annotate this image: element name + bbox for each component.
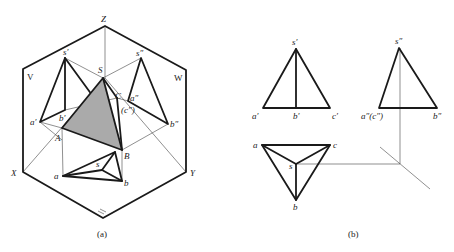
label-s: s <box>96 159 100 169</box>
front-view <box>263 49 330 108</box>
label-s-prime: s′ <box>63 47 70 57</box>
label-a-b: a <box>253 140 258 150</box>
caption-a: (a) <box>97 229 107 239</box>
label-A: A <box>54 133 61 143</box>
label-ac-double-prime-b: a″(c″) <box>361 111 383 121</box>
label-c-prime-b: c′ <box>332 111 339 121</box>
label-b-prime: b′ <box>59 113 67 123</box>
top-view <box>262 145 330 200</box>
label-b: b <box>124 178 129 188</box>
label-a-prime-b: a′ <box>252 111 260 121</box>
label-b-prime-b: b′ <box>293 111 301 121</box>
label-y: Y <box>190 168 196 178</box>
h-projection <box>63 152 122 181</box>
label-x: X <box>10 168 17 178</box>
label-s-b: s <box>289 161 293 171</box>
side-view <box>379 48 437 108</box>
label-z: Z <box>101 14 107 24</box>
label-a: a <box>54 171 59 181</box>
label-a-double-prime: a″ <box>130 93 139 103</box>
projection-diagram: Z V W X Y s′ a′ b′ S C A B s″ a″ (c″) b″… <box>0 0 454 252</box>
label-c-double-prime: (c″) <box>121 105 135 115</box>
label-C: C <box>115 91 122 101</box>
label-b-b: b <box>293 202 298 212</box>
label-a-prime: a′ <box>30 117 38 127</box>
label-B: B <box>124 151 130 161</box>
label-s-double-prime-b: s″ <box>395 36 403 46</box>
pyramid <box>62 78 122 150</box>
figure-b: s′ a′ b′ c′ s″ a″(c″) b″ a c s b (b) <box>252 36 442 239</box>
label-w: W <box>174 73 183 83</box>
label-s-prime-b: s′ <box>292 37 299 47</box>
label-b-double-prime-b: b″ <box>433 111 442 121</box>
label-c-b: c <box>333 140 337 150</box>
caption-b: (b) <box>348 229 359 239</box>
figure-a: Z V W X Y s′ a′ b′ S C A B s″ a″ (c″) b″… <box>10 14 196 239</box>
label-S: S <box>98 65 103 75</box>
label-s-double-prime: s″ <box>136 48 144 58</box>
h-plane-mark <box>98 209 106 214</box>
label-b-double-prime: b″ <box>170 119 179 129</box>
label-v: V <box>27 72 34 82</box>
